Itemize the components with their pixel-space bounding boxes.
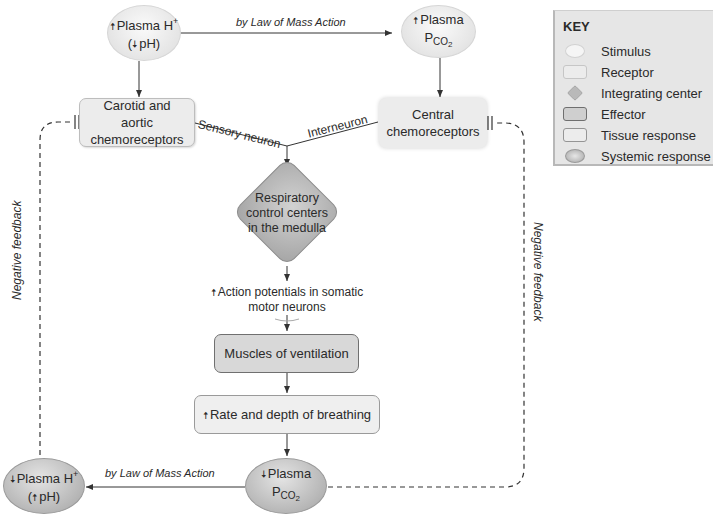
down-arrow-icon: 🠇	[132, 39, 137, 50]
negative-feedback-right-label: Negative feedback	[531, 222, 545, 321]
negative-feedback-left-path	[40, 122, 72, 455]
legend-key: KEY Stimulus Receptor Integrating center…	[553, 10, 713, 166]
key-item-effector: Effector	[563, 104, 646, 124]
node-action-potentials: 🠅Action potentials in somatic motor neur…	[200, 283, 374, 317]
ellipse-light-icon	[565, 44, 585, 58]
ellipse-dark-icon	[565, 149, 585, 163]
up-arrow-icon: 🠅	[203, 410, 208, 421]
node-line: 🠅Plasma H+	[110, 13, 179, 35]
node-rate-and-depth-of-breathing: 🠅Rate and depth of breathing	[194, 395, 380, 434]
diamond-icon	[567, 85, 583, 101]
key-item-integrating-center: Integrating center	[563, 83, 702, 103]
node-line: 🠅Action potentials in somatic motor neur…	[200, 285, 374, 315]
node-respiratory-control-centers: Respiratory control centers in the medul…	[245, 176, 329, 250]
rounded-rect-light-icon	[563, 65, 587, 79]
node-plasma-pco2-increase: 🠅Plasma PCO2	[401, 5, 476, 58]
node-line: (🠇pH)	[128, 35, 160, 53]
node-plasma-pco2-decrease: 🠇Plasma PCO2	[245, 458, 327, 514]
node-plasma-h-decrease: 🠇Plasma H+ (🠅pH)	[3, 458, 85, 514]
node-plasma-h-increase: 🠅Plasma H+ (🠇pH)	[107, 5, 181, 61]
mass-action-top-label: by Law of Mass Action	[236, 16, 346, 28]
key-item-stimulus: Stimulus	[563, 41, 651, 61]
rounded-rect-dark-icon	[563, 107, 587, 121]
node-carotid-aortic-chemoreceptors: Carotid and aortic chemoreceptors	[79, 98, 195, 147]
mass-action-bottom-label: by Law of Mass Action	[105, 467, 215, 479]
up-arrow-icon: 🠅	[110, 21, 115, 32]
node-line: 🠅Plasma	[413, 11, 463, 29]
up-arrow-icon: 🠅	[32, 492, 37, 503]
key-title: KEY	[563, 19, 590, 34]
node-central-chemoreceptors: Central chemoreceptors	[379, 98, 487, 148]
rounded-rect-outline-icon	[563, 128, 587, 142]
negative-feedback-left-label: Negative feedback	[10, 201, 24, 300]
down-arrow-icon: 🠇	[10, 474, 15, 485]
node-line: PCO2	[272, 483, 300, 507]
key-item-receptor: Receptor	[563, 62, 654, 82]
key-item-tissue-response: Tissue response	[563, 125, 696, 145]
up-arrow-icon: 🠅	[211, 287, 216, 298]
key-item-systemic-response: Systemic response	[563, 146, 711, 166]
node-line: (🠅pH)	[28, 488, 60, 506]
node-muscles-of-ventilation: Muscles of ventilation	[214, 334, 359, 373]
down-arrow-icon: 🠇	[261, 469, 266, 480]
node-line: 🠅Rate and depth of breathing	[203, 406, 371, 424]
node-line: 🠇Plasma	[261, 465, 311, 483]
node-line: PCO2	[424, 29, 452, 53]
node-line: 🠇Plasma H+	[10, 466, 79, 488]
up-arrow-icon: 🠅	[413, 15, 418, 26]
